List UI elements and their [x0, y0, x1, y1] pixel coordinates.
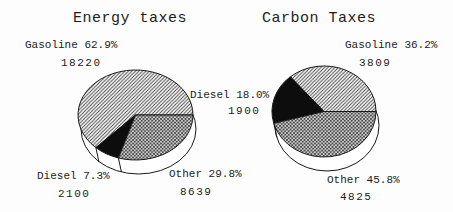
energy-taxes-label-gasoline: Gasoline 62.9%: [25, 39, 117, 51]
energy-taxes-pie: [78, 70, 196, 174]
carbon-taxes-title: Carbon Taxes: [262, 10, 376, 27]
energy-taxes-value-diesel: 2100: [58, 188, 90, 200]
energy-taxes-title: Energy taxes: [73, 10, 187, 27]
carbon-taxes-label-diesel: Diesel 18.0%: [190, 89, 269, 101]
carbon-taxes-label-gasoline: Gasoline 36.2%: [345, 39, 437, 51]
energy-taxes-label-diesel: Diesel 7.3%: [37, 170, 110, 182]
energy-taxes-value-other: 8639: [180, 186, 212, 198]
carbon-taxes-value-diesel: 1900: [228, 105, 260, 117]
carbon-taxes-value-gasoline: 3809: [359, 57, 391, 69]
figure-canvas: Energy taxesGasoline 62.9%18220Diesel 7.…: [0, 0, 453, 212]
carbon-taxes-pie: [272, 66, 379, 171]
carbon-taxes-value-other: 4825: [340, 191, 372, 203]
energy-taxes-value-gasoline: 18220: [61, 57, 102, 69]
energy-taxes-label-other: Other 29.8%: [169, 168, 242, 180]
carbon-taxes-label-other: Other 45.8%: [327, 174, 400, 186]
